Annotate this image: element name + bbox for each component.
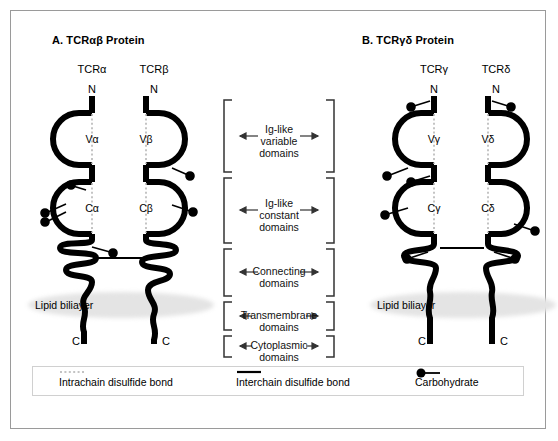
panel-b-constant-domain-2: Cδ (458, 202, 518, 214)
panel-a-variable-domain-2: Vβ (116, 133, 176, 145)
panel-b-variable-domain-2: Vδ (458, 133, 518, 145)
legend-item-interchain: Interchain disulfide bond (236, 367, 350, 397)
panel-a-constant-domain-2: Cβ (116, 202, 176, 214)
panel-b-constant-domain-1: Cγ (404, 202, 464, 214)
carbohydrate-icon (415, 367, 441, 379)
legend-label-intrachain: Intrachain disulfide bond (59, 376, 173, 388)
legend-label-interchain: Interchain disulfide bond (236, 376, 350, 388)
panel-b-chain-1-c-terminus: C (418, 335, 426, 347)
panel-b-variable-domain-1: Vγ (404, 133, 464, 145)
legend-item-carbohydrate: Carbohydrate (415, 367, 479, 397)
panel-b-chain-2-c-terminus: C (500, 335, 508, 347)
figure-canvas: A. TCRαβ Protein TCRα TCRβ N N Lipid bil… (0, 0, 558, 441)
panel-a-constant-domain-1: Cα (62, 202, 122, 214)
dotted-line-icon (59, 367, 85, 377)
figure-legend: Intrachain disulfide bond Interchain dis… (32, 366, 524, 396)
legend-item-intrachain: Intrachain disulfide bond (59, 367, 173, 397)
solid-line-icon (236, 367, 262, 377)
panel-a-variable-domain-1: Vα (62, 133, 122, 145)
